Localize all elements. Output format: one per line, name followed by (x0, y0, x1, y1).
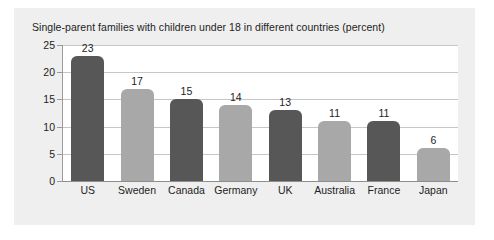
y-axis-tick-label: 20 (43, 66, 55, 78)
chart-figure: Single-parent families with children und… (14, 8, 475, 225)
bar-group: 23US (63, 45, 112, 181)
y-axis-tick-label: 10 (43, 121, 55, 133)
bar[interactable] (170, 99, 203, 181)
bar-value-label: 13 (261, 96, 310, 108)
y-axis-tick-label: 5 (49, 148, 55, 160)
bar-group: 11Australia (310, 45, 359, 181)
bar-value-label: 6 (409, 134, 458, 146)
bar-value-label: 14 (211, 91, 260, 103)
bar-value-label: 15 (162, 85, 211, 97)
plot-frame: 0510152025 23US17Sweden15Canada14Germany… (48, 45, 458, 199)
bar[interactable] (71, 56, 104, 181)
bar-value-label: 11 (310, 107, 359, 119)
bar[interactable] (121, 89, 154, 181)
bar-group: 11France (359, 45, 408, 181)
x-axis-line (62, 181, 458, 182)
y-axis-tick-label: 25 (43, 39, 55, 51)
bar-group: 15Canada (162, 45, 211, 181)
bar-group: 13UK (261, 45, 310, 181)
y-axis-tick-label: 15 (43, 93, 55, 105)
bar-group: 6Japan (409, 45, 458, 181)
chart-title: Single-parent families with children und… (32, 21, 385, 33)
bars-layer: 23US17Sweden15Canada14Germany13UK11Austr… (63, 45, 458, 181)
bar[interactable] (219, 105, 252, 181)
bar[interactable] (269, 110, 302, 181)
bar-value-label: 11 (359, 107, 408, 119)
bar[interactable] (318, 121, 351, 181)
bar-value-label: 17 (112, 75, 161, 87)
bar-value-label: 23 (63, 42, 112, 54)
bar[interactable] (367, 121, 400, 181)
bar-group: 17Sweden (112, 45, 161, 181)
bar-group: 14Germany (211, 45, 260, 181)
bar[interactable] (417, 148, 450, 181)
x-axis-category-label: Japan (399, 184, 468, 196)
